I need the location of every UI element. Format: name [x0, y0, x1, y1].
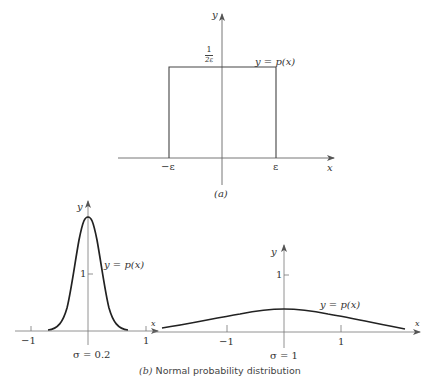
figure-b-left-x-tick-neg-label: −1	[21, 336, 36, 346]
figure-b-left-curve-label: y = p(x)	[104, 260, 144, 270]
figure-a-plot	[118, 14, 334, 185]
figure-b-left-x-tick-pos-label: 1	[143, 336, 149, 346]
figure-a-height-fraction: 1 2ε	[205, 46, 213, 64]
figure-b-right-x-tick-pos-label: 1	[338, 337, 344, 347]
figure-b-right-normal-curve	[162, 309, 405, 329]
figure-b-right-y-label: y	[271, 247, 277, 257]
figure-a-height-denominator: 2ε	[205, 56, 213, 64]
figure-a-x-label: x	[327, 163, 333, 173]
figure-b-right-curve-label: y = p(x)	[320, 300, 360, 310]
figure-a-uniform-curve	[169, 67, 276, 158]
figure-b-left-y-label: y	[77, 202, 83, 212]
figure-b-right-x-label: x	[415, 320, 420, 328]
figure-b-caption-text: Normal probability distribution	[156, 365, 301, 376]
figure-b-right-x-tick-neg-label: −1	[219, 337, 234, 347]
figure-a-y-label: y	[212, 10, 218, 20]
figure-b-caption: (b) Normal probability distribution	[139, 366, 301, 376]
figure-a-left-tick-label: −ε	[161, 162, 175, 172]
figure-b-right-sigma-label: σ = 1	[270, 351, 298, 361]
figure-a-right-tick-label: ε	[273, 162, 278, 172]
figure-b-left-y-tick-label: 1	[80, 269, 86, 279]
figure-a-curve-label: y = p(x)	[255, 57, 295, 67]
figure-b-left-sigma-label: σ = 0.2	[73, 350, 110, 360]
figure-b-right-y-tick-label: 1	[276, 270, 282, 280]
figure-b-caption-prefix: (b)	[139, 365, 153, 376]
figure-b-right-plot	[152, 245, 420, 348]
figure-b-left-x-label: x	[151, 320, 156, 328]
figure-a-height-numerator: 1	[205, 46, 213, 56]
figure-a-caption: (a)	[214, 189, 228, 199]
figure-b-left-plot	[15, 201, 158, 345]
